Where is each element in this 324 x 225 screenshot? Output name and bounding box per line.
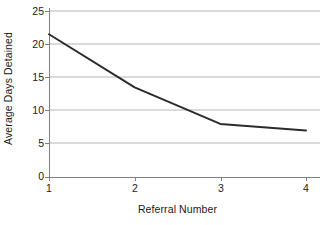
chart-figure: Average Days Detained 25 20 15 10 5 0 (0, 0, 324, 225)
y-tick-marks (45, 12, 49, 178)
x-tick-label-3: 3 (209, 182, 233, 194)
x-axis-title: Referral Number (49, 203, 306, 215)
gridlines (49, 11, 320, 143)
data-series-line (49, 34, 306, 130)
x-tick-label-2: 2 (123, 182, 147, 194)
x-tick-label-1: 1 (37, 182, 61, 194)
x-tick-label-4: 4 (294, 182, 318, 194)
